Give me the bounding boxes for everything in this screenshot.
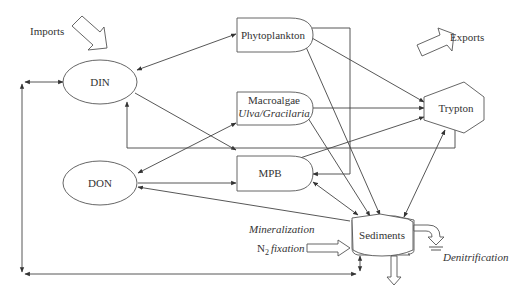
denitrification-label: Denitrification xyxy=(442,251,509,263)
exports-arrow-icon xyxy=(417,28,454,56)
nitrogen-cycle-diagram: Imports Exports xyxy=(0,0,520,297)
node-mpb-label: MPB xyxy=(258,167,281,179)
node-macroalgae[interactable]: Macroalgae Ulva/Gracilaria xyxy=(237,92,313,125)
node-sediments[interactable]: Sediments xyxy=(352,214,414,256)
imports-arrow-icon xyxy=(72,16,107,50)
node-mpb[interactable]: MPB xyxy=(237,156,313,191)
node-phytoplankton[interactable]: Phytoplankton xyxy=(237,18,313,52)
n2-fixation-label: N2fixation xyxy=(257,242,305,257)
node-din-label: DIN xyxy=(90,76,110,88)
node-macroalgae-sublabel: Ulva/Gracilaria xyxy=(238,107,310,119)
node-macroalgae-label: Macroalgae xyxy=(248,94,300,106)
node-trypton[interactable]: Trypton xyxy=(424,82,484,133)
node-sediments-label: Sediments xyxy=(359,229,405,241)
n2-fixation-arrow-icon xyxy=(307,240,350,256)
mineralization-label: Mineralization xyxy=(248,223,315,235)
node-don[interactable]: DON xyxy=(63,161,137,205)
node-don-label: DON xyxy=(88,177,112,189)
imports-label: Imports xyxy=(30,25,64,37)
denitrification-pipe-icon xyxy=(414,225,444,250)
node-din[interactable]: DIN xyxy=(63,60,137,104)
burial-arrow-icon xyxy=(387,256,401,285)
node-trypton-label: Trypton xyxy=(438,102,474,114)
node-phytoplankton-label: Phytoplankton xyxy=(241,29,306,41)
exports-label: Exports xyxy=(450,31,484,43)
